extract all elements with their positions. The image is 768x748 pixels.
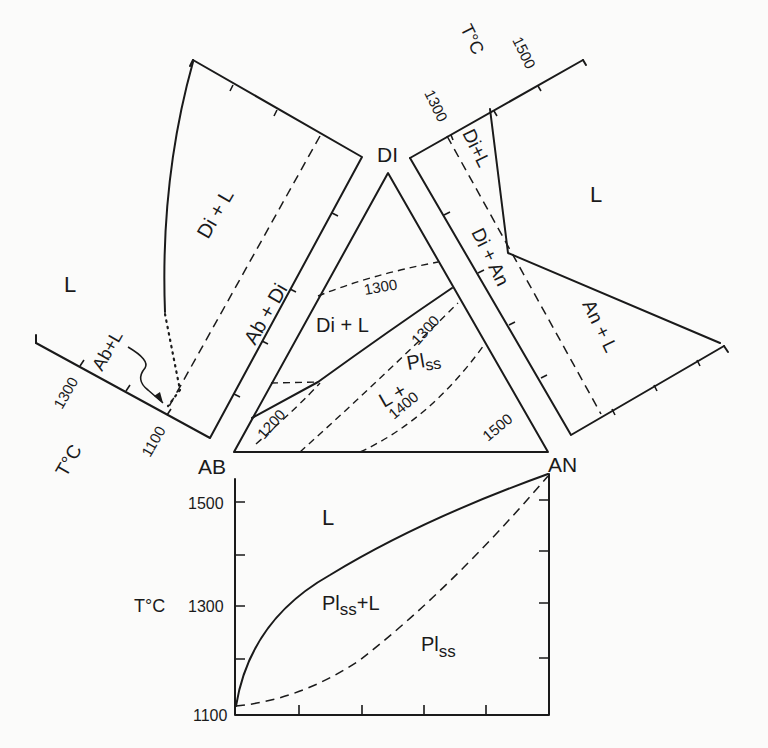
field-label-di-l: Di + L [192, 185, 237, 242]
binary-ab-di: L Di + L Ab + Di Ab+L 1300 1100 T°C [36, 60, 362, 480]
binary-di-an-liquidus [490, 109, 720, 343]
axis-label-temp: T°C [51, 441, 86, 480]
binary-ab-di-frame [36, 60, 362, 438]
field-label-di-l: Di + L [316, 314, 369, 336]
field-label-plss: Plss [421, 633, 456, 661]
isotherm-1200-top [271, 382, 318, 383]
binary-ab-di-liquidus [164, 62, 193, 312]
binary-ab-di-solidus [167, 136, 320, 410]
phase-diagram: DI AB AN Di + L L + Plss 1300 1300 1200 … [0, 0, 768, 748]
vertex-label-ab: AB [198, 455, 226, 478]
field-label-l: L [322, 505, 334, 530]
binary-di-an-frame [410, 158, 724, 435]
axis-label-temp: T°C [134, 596, 165, 616]
liquidus-curve [236, 474, 548, 706]
isotherm-label-1300-lower: 1300 [408, 312, 443, 348]
y-ticks-left [235, 502, 245, 659]
x-ticks [299, 705, 486, 715]
axis-label-temp: T°C [456, 21, 488, 58]
tick-label-1300: 1300 [188, 598, 224, 615]
vertex-label-an: AN [548, 453, 577, 476]
isotherm-label-1500: 1500 [479, 410, 515, 444]
binary-di-an: L Di+L Di + An An + L 1300 1500 T°C [410, 21, 728, 435]
tick-label-1500: 1500 [188, 495, 224, 512]
tick-label-1100: 1100 [138, 423, 169, 459]
solidus-curve [236, 476, 548, 706]
binary-ab-an: L Plss+L Plss 1500 1300 1100 T°C [134, 474, 549, 724]
tick-label-1300: 1300 [421, 87, 451, 124]
field-label-ab-l: Ab+L [88, 327, 127, 374]
field-label-plss: Plss [405, 346, 443, 376]
tick-label-1300: 1300 [50, 374, 81, 411]
y-ticks-right [539, 500, 549, 658]
isotherm-label-1200: 1200 [254, 406, 289, 442]
vertex-label-di: DI [377, 143, 398, 166]
binary-di-an-solidus [447, 136, 601, 414]
field-label-ab-di: Ab + Di [239, 280, 291, 348]
binary-ab-an-frame [235, 474, 549, 715]
field-label-l: L [64, 272, 76, 297]
field-label-di-l: Di+L [458, 126, 494, 171]
field-label-an-l: An + L [578, 297, 621, 356]
tick-label-1100: 1100 [193, 707, 228, 724]
arrowhead-icon [154, 392, 163, 403]
tick-label-1500: 1500 [509, 34, 539, 71]
field-label-plss-l: Plss+L [322, 592, 380, 619]
field-label-l: L [590, 182, 602, 207]
